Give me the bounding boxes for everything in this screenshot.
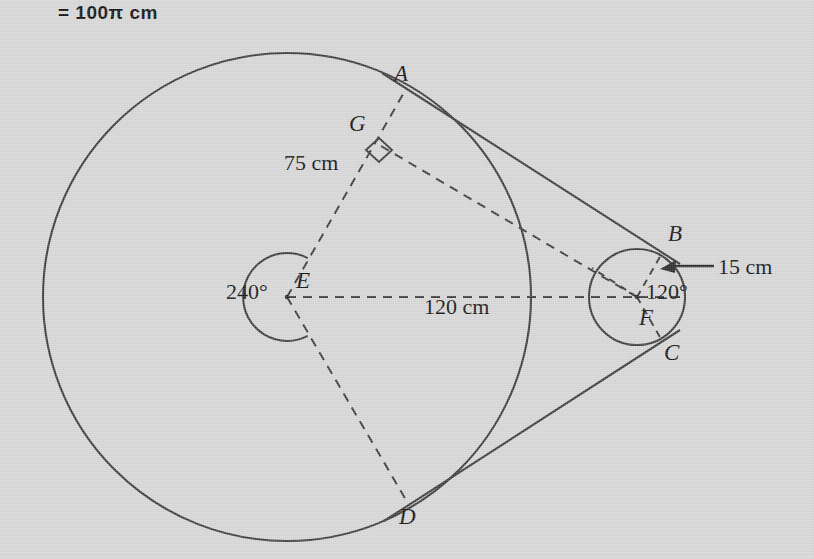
center-dot-E	[285, 295, 289, 299]
arrowhead-15cm-icon	[660, 260, 676, 273]
tangent-line-lower-DC	[384, 330, 680, 521]
point-label-E: E	[296, 269, 310, 292]
measure-label-75cm: 75 cm	[284, 152, 338, 174]
dashed-radius-EA	[287, 89, 406, 297]
point-label-B: B	[668, 222, 682, 245]
angle-label-120-degrees: 120°	[646, 281, 688, 303]
point-label-D: D	[399, 505, 416, 528]
center-dot-F	[635, 295, 639, 299]
diagram-page: = 100π cm A	[0, 0, 814, 559]
tangent-line-upper-AB	[382, 73, 680, 264]
dashed-line-GF	[381, 146, 637, 297]
point-label-A: A	[394, 62, 408, 85]
point-label-G: G	[349, 112, 366, 135]
point-label-C: C	[664, 341, 679, 364]
point-label-F: F	[639, 306, 653, 329]
dashed-radius-ED	[287, 297, 409, 505]
angle-label-240-degrees: 240°	[226, 281, 268, 303]
measure-label-120cm: 120 cm	[424, 296, 489, 318]
measure-label-15cm: 15 cm	[718, 256, 772, 278]
